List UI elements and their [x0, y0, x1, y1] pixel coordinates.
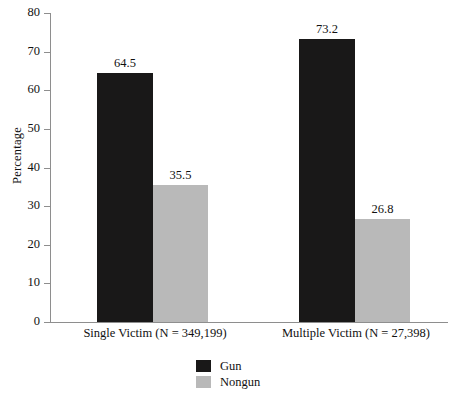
y-tick-0: 0 — [44, 322, 50, 323]
plot-area: 80 70 60 50 40 30 20 10 0 64.5 35. — [50, 13, 448, 322]
y-axis-line — [50, 13, 51, 323]
bar-value-single-victim-gun: 64.5 — [114, 56, 136, 71]
y-tick-20: 20 — [44, 245, 50, 246]
y-tick-label-80: 80 — [28, 5, 41, 20]
y-tick-label-70: 70 — [28, 44, 41, 59]
y-tick-label-0: 0 — [34, 314, 40, 329]
y-tick-label-10: 10 — [28, 275, 41, 290]
y-tick-80: 80 — [44, 13, 50, 14]
y-tick-label-60: 60 — [28, 82, 41, 97]
y-tick-label-40: 40 — [28, 160, 41, 175]
legend-label-gun: Gun — [220, 359, 242, 374]
legend-item-nongun: Nongun — [196, 374, 260, 390]
legend-item-gun: Gun — [196, 358, 260, 374]
y-tick-70: 70 — [44, 52, 50, 53]
bar-value-multiple-victim-gun: 73.2 — [316, 22, 338, 37]
bar-value-single-victim-nongun: 35.5 — [170, 168, 192, 183]
y-tick-50: 50 — [44, 129, 50, 130]
y-tick-60: 60 — [44, 90, 50, 91]
legend-swatch-gun-icon — [196, 360, 211, 372]
legend-label-nongun: Nongun — [220, 375, 260, 390]
bar-single-victim-nongun: 35.5 — [153, 185, 208, 322]
bar-single-victim-gun: 64.5 — [97, 73, 153, 322]
bar-multiple-victim-gun: 73.2 — [299, 39, 355, 322]
y-tick-10: 10 — [44, 283, 50, 284]
x-category-label-multiple-victim: Multiple Victim (N = 27,398) — [258, 326, 453, 341]
y-axis-label: Percentage — [10, 106, 25, 206]
x-category-label-single-victim: Single Victim (N = 349,199) — [52, 326, 258, 341]
chart-legend: Gun Nongun — [196, 358, 260, 390]
bar-chart-figure: Percentage 80 70 60 50 40 30 20 10 0 — [0, 0, 453, 399]
y-tick-30: 30 — [44, 206, 50, 207]
x-axis-line — [50, 322, 448, 323]
bar-value-multiple-victim-nongun: 26.8 — [372, 202, 394, 217]
bar-multiple-victim-nongun: 26.8 — [355, 219, 410, 323]
y-tick-40: 40 — [44, 168, 50, 169]
legend-swatch-nongun-icon — [196, 376, 211, 388]
y-tick-label-20: 20 — [28, 237, 41, 252]
y-tick-label-30: 30 — [28, 198, 41, 213]
y-tick-label-50: 50 — [28, 121, 41, 136]
